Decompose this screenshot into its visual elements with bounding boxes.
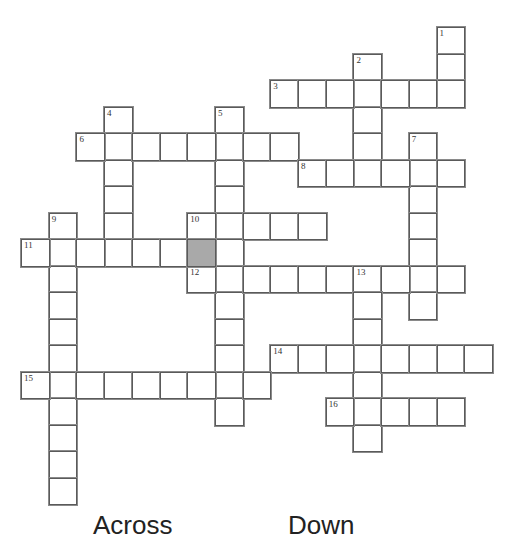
crossword-cell[interactable] bbox=[215, 319, 244, 347]
crossword-cell[interactable] bbox=[132, 133, 161, 161]
crossword-cell[interactable] bbox=[49, 451, 78, 479]
crossword-cell[interactable] bbox=[409, 160, 438, 188]
crossword-cell[interactable] bbox=[49, 478, 78, 506]
crossword-cell[interactable] bbox=[381, 160, 410, 188]
crossword-cell[interactable]: 8 bbox=[298, 160, 327, 188]
crossword-cell[interactable] bbox=[49, 266, 78, 294]
crossword-cell[interactable] bbox=[353, 372, 382, 400]
crossword-cell[interactable] bbox=[353, 160, 382, 188]
crossword-cell[interactable] bbox=[409, 292, 438, 320]
crossword-cell[interactable] bbox=[49, 239, 78, 267]
crossword-cell[interactable] bbox=[104, 239, 133, 267]
crossword-cell[interactable] bbox=[409, 398, 438, 426]
crossword-cell[interactable] bbox=[437, 160, 466, 188]
crossword-cell[interactable]: 3 bbox=[270, 80, 299, 108]
crossword-cell[interactable] bbox=[381, 266, 410, 294]
crossword-cell[interactable] bbox=[243, 133, 272, 161]
crossword-cell[interactable] bbox=[381, 398, 410, 426]
crossword-cell[interactable]: 15 bbox=[21, 372, 50, 400]
crossword-cell[interactable] bbox=[76, 239, 105, 267]
crossword-cell[interactable] bbox=[270, 266, 299, 294]
crossword-cell[interactable] bbox=[215, 186, 244, 214]
crossword-cell[interactable] bbox=[409, 186, 438, 214]
crossword-cell[interactable] bbox=[409, 213, 438, 241]
crossword-cell[interactable] bbox=[132, 239, 161, 267]
crossword-cell[interactable]: 12 bbox=[187, 266, 216, 294]
crossword-cell[interactable] bbox=[270, 133, 299, 161]
crossword-cell[interactable] bbox=[49, 425, 78, 453]
crossword-cell[interactable] bbox=[104, 213, 133, 241]
crossword-cell[interactable] bbox=[132, 372, 161, 400]
crossword-cell[interactable] bbox=[104, 160, 133, 188]
crossword-cell[interactable] bbox=[215, 239, 244, 267]
crossword-cell[interactable] bbox=[104, 133, 133, 161]
crossword-cell[interactable]: 11 bbox=[21, 239, 50, 267]
crossword-cell[interactable] bbox=[49, 292, 78, 320]
crossword-cell[interactable] bbox=[326, 160, 355, 188]
crossword-cell[interactable]: 10 bbox=[187, 213, 216, 241]
clue-number: 14 bbox=[273, 347, 282, 356]
crossword-cell[interactable] bbox=[437, 54, 466, 82]
crossword-cell[interactable] bbox=[160, 133, 189, 161]
crossword-cell[interactable] bbox=[215, 160, 244, 188]
crossword-cell[interactable] bbox=[215, 133, 244, 161]
crossword-cell[interactable] bbox=[381, 80, 410, 108]
crossword-cell[interactable]: 4 bbox=[104, 107, 133, 135]
crossword-cell[interactable] bbox=[353, 292, 382, 320]
crossword-cell[interactable] bbox=[353, 425, 382, 453]
crossword-cell[interactable] bbox=[409, 266, 438, 294]
crossword-cell[interactable] bbox=[409, 80, 438, 108]
crossword-cell[interactable] bbox=[160, 239, 189, 267]
crossword-cell[interactable]: 16 bbox=[326, 398, 355, 426]
crossword-cell[interactable] bbox=[215, 292, 244, 320]
crossword-cell[interactable] bbox=[298, 345, 327, 373]
crossword-cell[interactable] bbox=[49, 319, 78, 347]
crossword-cell[interactable] bbox=[437, 80, 466, 108]
crossword-cell[interactable]: 6 bbox=[76, 133, 105, 161]
crossword-cell[interactable] bbox=[160, 372, 189, 400]
crossword-cell[interactable] bbox=[187, 133, 216, 161]
crossword-cell[interactable] bbox=[437, 398, 466, 426]
crossword-cell[interactable] bbox=[353, 345, 382, 373]
crossword-cell[interactable]: 13 bbox=[353, 266, 382, 294]
crossword-cell[interactable]: 14 bbox=[270, 345, 299, 373]
crossword-cell[interactable] bbox=[409, 345, 438, 373]
crossword-cell[interactable] bbox=[187, 372, 216, 400]
crossword-cell[interactable] bbox=[49, 372, 78, 400]
crossword-cell[interactable] bbox=[215, 398, 244, 426]
crossword-cell[interactable]: 7 bbox=[409, 133, 438, 161]
crossword-cell[interactable] bbox=[353, 107, 382, 135]
crossword-cell[interactable] bbox=[215, 345, 244, 373]
crossword-cell[interactable] bbox=[353, 133, 382, 161]
crossword-cell[interactable] bbox=[215, 372, 244, 400]
crossword-cell[interactable] bbox=[353, 80, 382, 108]
crossword-cell[interactable]: 5 bbox=[215, 107, 244, 135]
crossword-cell[interactable] bbox=[353, 398, 382, 426]
crossword-cell[interactable] bbox=[243, 372, 272, 400]
crossword-cell[interactable] bbox=[326, 345, 355, 373]
crossword-cell[interactable] bbox=[381, 345, 410, 373]
crossword-cell[interactable] bbox=[76, 372, 105, 400]
crossword-cell[interactable] bbox=[298, 266, 327, 294]
crossword-cell[interactable] bbox=[49, 398, 78, 426]
crossword-cell[interactable] bbox=[464, 345, 493, 373]
crossword-cell[interactable] bbox=[353, 319, 382, 347]
crossword-cell[interactable] bbox=[104, 186, 133, 214]
crossword-cell[interactable] bbox=[326, 266, 355, 294]
crossword-cell[interactable] bbox=[298, 80, 327, 108]
crossword-cell[interactable] bbox=[49, 345, 78, 373]
crossword-cell[interactable]: 1 bbox=[437, 27, 466, 55]
crossword-cell[interactable] bbox=[437, 266, 466, 294]
crossword-cell[interactable] bbox=[215, 213, 244, 241]
crossword-cell[interactable]: 2 bbox=[353, 54, 382, 82]
crossword-cell[interactable] bbox=[326, 80, 355, 108]
crossword-cell[interactable] bbox=[437, 345, 466, 373]
crossword-cell[interactable] bbox=[298, 213, 327, 241]
crossword-cell[interactable] bbox=[243, 266, 272, 294]
crossword-cell[interactable]: 9 bbox=[49, 213, 78, 241]
crossword-cell[interactable] bbox=[215, 266, 244, 294]
crossword-cell[interactable] bbox=[104, 372, 133, 400]
crossword-cell[interactable] bbox=[270, 213, 299, 241]
crossword-cell[interactable] bbox=[243, 213, 272, 241]
crossword-cell[interactable] bbox=[409, 239, 438, 267]
